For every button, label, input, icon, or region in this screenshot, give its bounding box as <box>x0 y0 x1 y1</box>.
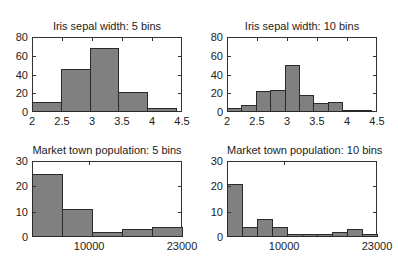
histogram-bar <box>227 184 243 237</box>
histogram-bar <box>299 95 314 112</box>
y-tick-mark <box>178 75 181 76</box>
histogram-bar <box>313 103 328 112</box>
y-tick-mark <box>178 212 181 213</box>
y-tick-mark <box>373 75 376 76</box>
y-tick-label: 80 <box>201 31 223 43</box>
y-tick-mark <box>373 212 376 213</box>
y-tick-label: 10 <box>201 206 223 218</box>
y-tick-label: 10 <box>6 206 28 218</box>
histogram-bar <box>32 174 63 237</box>
x-tick-mark <box>347 38 348 41</box>
plot-area <box>227 37 377 112</box>
y-tick-label: 0 <box>201 231 223 243</box>
x-tick-label: 4.5 <box>162 115 202 127</box>
y-tick-mark <box>178 186 181 187</box>
histogram-bar <box>285 65 300 112</box>
chart-title: Market town population: 5 bins <box>32 144 182 156</box>
histogram-bar <box>227 108 242 112</box>
y-tick-mark <box>33 212 36 213</box>
histogram-bar <box>328 102 343 112</box>
y-tick-label: 40 <box>201 69 223 81</box>
x-tick-label: 4.5 <box>357 115 397 127</box>
histogram-bar <box>62 209 93 237</box>
y-tick-label: 20 <box>201 87 223 99</box>
y-tick-label: 20 <box>201 180 223 192</box>
y-tick-mark <box>178 56 181 57</box>
y-tick-label: 60 <box>201 50 223 62</box>
y-tick-mark <box>178 93 181 94</box>
histogram-bar <box>347 229 363 237</box>
histogram-bar <box>61 69 91 112</box>
y-tick-mark <box>33 56 36 57</box>
x-tick-label: 10000 <box>69 240 109 252</box>
histogram-bar <box>317 234 333 237</box>
y-tick-mark <box>228 212 231 213</box>
histogram-bar <box>270 90 285 113</box>
chart-title: Market town population: 10 bins <box>227 144 377 156</box>
histogram-bar <box>122 229 153 237</box>
y-tick-mark <box>33 75 36 76</box>
x-tick-mark <box>317 38 318 41</box>
y-tick-label: 20 <box>6 87 28 99</box>
y-tick-label: 40 <box>6 69 28 81</box>
x-tick-mark <box>89 162 90 165</box>
histogram-bar <box>242 227 258 237</box>
x-tick-mark <box>122 38 123 41</box>
histogram-bar <box>90 48 120 112</box>
histogram-bar <box>357 110 372 112</box>
y-tick-label: 80 <box>6 31 28 43</box>
x-tick-label: 23000 <box>357 240 397 252</box>
x-tick-mark <box>257 38 258 41</box>
plot-area <box>32 37 182 112</box>
histogram-bar <box>257 219 273 237</box>
histogram-bar <box>272 227 288 237</box>
histogram-bar <box>287 234 303 237</box>
histogram-bar <box>92 232 123 237</box>
histogram-bar <box>241 105 256 112</box>
histogram-bar <box>362 234 378 237</box>
histogram-bar <box>256 91 271 112</box>
y-tick-label: 20 <box>6 180 28 192</box>
x-tick-mark <box>152 38 153 41</box>
histogram-bar <box>152 227 183 237</box>
plot-area <box>227 161 377 237</box>
histogram-bar <box>342 110 357 112</box>
y-tick-mark <box>228 186 231 187</box>
histogram-bar <box>118 92 148 112</box>
chart-title: Iris sepal width: 5 bins <box>32 20 182 32</box>
y-tick-mark <box>373 93 376 94</box>
y-tick-label: 60 <box>6 50 28 62</box>
x-tick-label: 10000 <box>264 240 304 252</box>
y-tick-label: 30 <box>6 155 28 167</box>
y-tick-mark <box>33 93 36 94</box>
histogram-bar <box>332 232 348 237</box>
y-tick-mark <box>33 186 36 187</box>
plot-area <box>32 161 182 237</box>
y-tick-mark <box>228 75 231 76</box>
y-tick-label: 0 <box>6 231 28 243</box>
histogram-bar <box>32 102 62 112</box>
x-tick-mark <box>284 162 285 165</box>
histogram-bar <box>302 234 318 237</box>
y-tick-mark <box>373 186 376 187</box>
y-tick-mark <box>373 56 376 57</box>
histogram-bar <box>147 108 177 112</box>
y-tick-mark <box>228 56 231 57</box>
y-tick-label: 30 <box>201 155 223 167</box>
x-tick-mark <box>62 38 63 41</box>
x-tick-mark <box>92 38 93 41</box>
x-tick-mark <box>287 38 288 41</box>
chart-title: Iris sepal width: 10 bins <box>227 20 377 32</box>
y-tick-mark <box>228 93 231 94</box>
x-tick-label: 23000 <box>162 240 202 252</box>
